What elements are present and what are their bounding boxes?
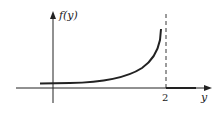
y-axis-label: f(y) bbox=[58, 9, 78, 22]
plot: f(y) 2 y bbox=[0, 0, 221, 114]
x-tick-2: 2 bbox=[162, 92, 168, 103]
density-curve bbox=[40, 29, 161, 84]
y-axis-arrow-icon bbox=[50, 11, 56, 19]
x-axis-label: y bbox=[200, 91, 208, 104]
